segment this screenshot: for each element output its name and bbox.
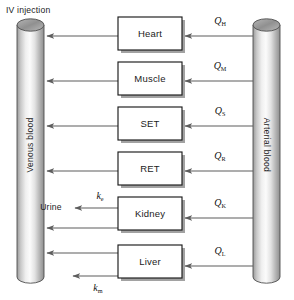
compartment-row-kidney: Kidney QK Urine ke — [40, 190, 253, 233]
compartment-row-heart: Heart QH — [47, 15, 253, 53]
metabolism-rate-constant-label: km — [93, 282, 102, 294]
compartment-row-ret: RET QR — [47, 150, 253, 188]
compartment-row-muscle: Muscle QM — [47, 60, 253, 98]
venous-blood-cylinder: Venous blood — [17, 19, 44, 283]
heart-flow-label: QH — [214, 15, 226, 27]
set-label: SET — [140, 118, 159, 129]
venous-cylinder-top-cap — [17, 19, 44, 31]
urine-label: Urine — [40, 202, 62, 212]
set-flow-label: QS — [215, 105, 226, 117]
muscle-flow-label: QM — [214, 60, 227, 72]
kidney-flow-label: QK — [214, 197, 226, 209]
pbpk-diagram: Venous blood Arterial blood IV injection… — [0, 0, 294, 300]
muscle-label: Muscle — [134, 73, 165, 84]
pbpk-diagram-svg: Venous blood Arterial blood IV injection… — [0, 0, 294, 300]
arterial-blood-label: Arterial blood — [262, 118, 272, 172]
arterial-cylinder-top-cap — [253, 19, 280, 31]
iv-injection-label: IV injection — [6, 5, 50, 15]
venous-blood-label: Venous blood — [25, 117, 35, 172]
liver-flow-label: QL — [214, 245, 225, 257]
arterial-blood-cylinder: Arterial blood — [253, 19, 280, 283]
ret-label: RET — [140, 163, 160, 174]
kidney-label: Kidney — [135, 208, 165, 219]
ret-flow-label: QR — [214, 150, 226, 162]
compartment-row-liver: Liver QL km — [47, 245, 253, 294]
liver-label: Liver — [139, 256, 161, 267]
compartment-row-set: SET QS — [47, 105, 253, 143]
urine-rate-constant-label: ke — [96, 190, 103, 202]
heart-label: Heart — [138, 28, 162, 39]
